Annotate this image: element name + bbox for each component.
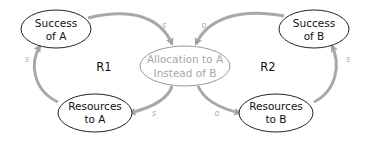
node-label: Allocation to A xyxy=(147,53,224,65)
polarity-success-b-allocation: o xyxy=(202,21,207,30)
polarity-success-a-allocation: s xyxy=(162,21,166,30)
node-label: to A xyxy=(84,113,106,125)
node-label: to B xyxy=(265,113,286,125)
polarity-allocation-resources-b: o xyxy=(215,109,220,118)
diagram-svg: Success of A Success of B Allocation to … xyxy=(0,0,370,144)
polarity-resources-b-success-b: s xyxy=(346,55,350,64)
arrow-resources-a-to-success-a xyxy=(34,46,58,102)
node-allocation: Allocation to A Instead of B xyxy=(140,46,230,86)
node-label: Resources xyxy=(249,100,303,112)
causal-loop-diagram: Success of A Success of B Allocation to … xyxy=(0,0,370,144)
node-success-of-b: Success of B xyxy=(279,10,349,48)
node-label: Success xyxy=(35,17,77,29)
node-resources-to-a: Resources to A xyxy=(58,94,132,132)
node-resources-to-b: Resources to B xyxy=(239,94,313,132)
node-label: Instead of B xyxy=(154,67,217,79)
node-label: Resources xyxy=(68,100,122,112)
loop-label-r1: R1 xyxy=(96,60,111,74)
node-success-of-a: Success of A xyxy=(21,10,91,48)
node-label: of B xyxy=(304,30,325,42)
polarity-resources-a-success-a: s xyxy=(25,55,29,64)
arrow-success-b-to-allocation xyxy=(196,13,284,44)
node-label: Success xyxy=(293,17,335,29)
node-label: of A xyxy=(46,30,67,42)
arrow-resources-b-to-success-b xyxy=(314,46,336,102)
polarity-allocation-resources-a: s xyxy=(152,109,156,118)
arrow-success-a-to-allocation xyxy=(88,14,172,44)
loop-label-r2: R2 xyxy=(260,60,275,74)
